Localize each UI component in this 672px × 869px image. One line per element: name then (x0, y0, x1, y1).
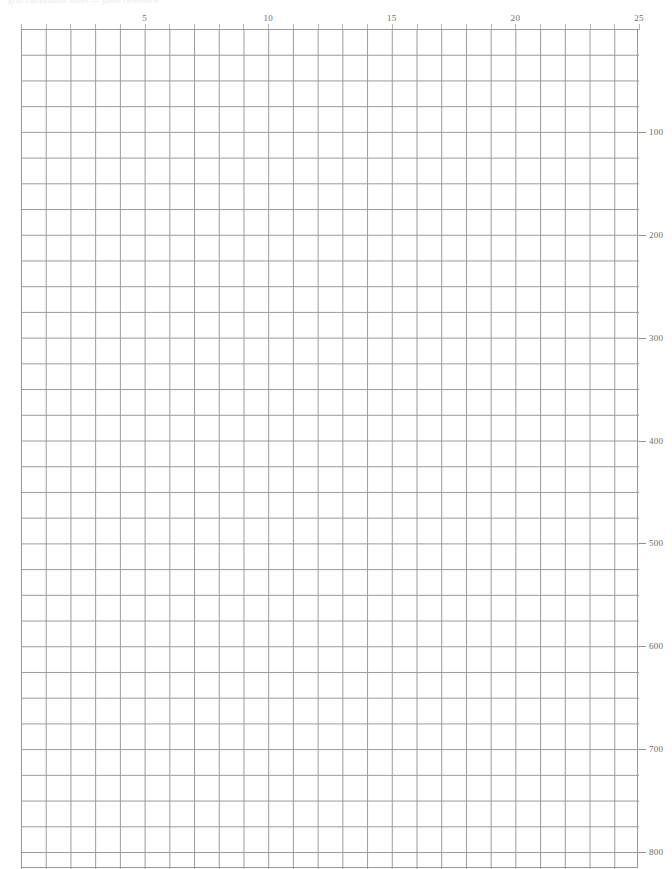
x-axis-tick-label: 15 (387, 13, 397, 23)
y-axis-tick (639, 852, 646, 853)
x-axis-tick-label: 20 (511, 13, 521, 23)
x-axis-tick-label: 10 (263, 13, 273, 23)
y-axis-tick-label: 700 (649, 744, 663, 754)
y-axis-tick-label: 300 (649, 333, 663, 343)
y-axis-tick (639, 338, 646, 339)
plot-grid-area (21, 29, 639, 869)
y-axis-tick (639, 235, 646, 236)
x-axis-tick (639, 24, 640, 30)
x-axis-tick-label: 25 (634, 13, 644, 23)
y-axis-tick-label: 600 (649, 641, 663, 651)
x-axis-tick-label: 5 (142, 13, 147, 23)
y-axis-tick-label: 500 (649, 538, 663, 548)
y-axis-tick (639, 543, 646, 544)
y-axis-tick (639, 749, 646, 750)
y-axis-tick-label: 200 (649, 230, 663, 240)
y-axis-tick (639, 646, 646, 647)
y-axis-tick-label: 100 (649, 127, 663, 137)
grid-lines (21, 29, 639, 869)
y-axis-tick (639, 441, 646, 442)
clipped-header-text: grid calibration sheet — plate reference (8, 0, 428, 5)
y-axis-tick-label: 800 (649, 847, 663, 857)
y-axis-tick-label: 400 (649, 436, 663, 446)
y-axis-tick (639, 132, 646, 133)
